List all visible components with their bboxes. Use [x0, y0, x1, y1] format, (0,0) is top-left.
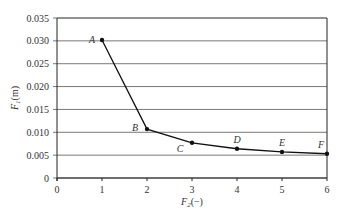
data-line: [102, 40, 327, 154]
x-tick-label: 3: [190, 184, 195, 195]
axes: [57, 18, 327, 181]
point-label: E: [278, 137, 285, 148]
x-axis-title: F2(−): [180, 196, 203, 209]
y-tick-labels: 00.0050.0100.0150.0200.0250.0300.035: [27, 13, 50, 184]
point-label: B: [132, 122, 138, 133]
point-labels: ABCDEF: [88, 34, 325, 154]
point-label: F: [317, 139, 325, 150]
x-tick-label: 4: [235, 184, 240, 195]
y-tick-label: 0.020: [27, 81, 50, 92]
y-tick-label: 0.005: [27, 150, 50, 161]
x-tick-label: 0: [55, 184, 60, 195]
x-tick-labels: 0123456: [55, 184, 330, 195]
x-tick-label: 5: [280, 184, 285, 195]
y-tick-label: 0.035: [27, 13, 50, 24]
y-tick-label: 0.025: [27, 58, 50, 69]
data-point: [325, 152, 329, 156]
x-tick-label: 6: [325, 184, 330, 195]
point-label: C: [177, 143, 184, 154]
x-tick-label: 2: [145, 184, 150, 195]
x-tick-label: 1: [100, 184, 105, 195]
y-tick-label: 0.015: [27, 104, 50, 115]
line-chart: 00.0050.0100.0150.0200.0250.0300.035 012…: [0, 0, 340, 219]
y-tick-label: 0.010: [27, 127, 50, 138]
data-point: [100, 38, 104, 42]
y-tick-label: 0: [44, 173, 49, 184]
y-axis-title: F1(m): [9, 86, 22, 111]
data-point: [145, 127, 149, 131]
point-label: A: [88, 34, 96, 45]
data-point: [190, 141, 194, 145]
data-point: [280, 150, 284, 154]
y-tick-label: 0.030: [27, 35, 50, 46]
data-series: [100, 38, 329, 156]
point-label: D: [232, 134, 241, 145]
data-point: [235, 147, 239, 151]
